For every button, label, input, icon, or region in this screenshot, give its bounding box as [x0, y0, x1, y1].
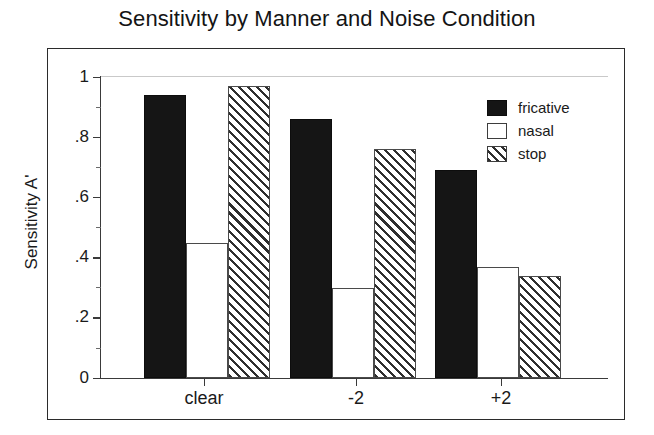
legend: fricative nasal stop	[487, 96, 607, 165]
y-tick-label-0.8: .8	[55, 128, 89, 145]
legend-label-stop: stop	[518, 145, 546, 162]
y-tick-1	[93, 77, 101, 78]
plot-top-rule	[100, 76, 608, 77]
bar-plus2-nasal	[477, 267, 519, 378]
y-tick-label-0: 0	[55, 369, 89, 386]
x-axis-line	[100, 378, 608, 379]
x-tick-clear	[204, 379, 205, 386]
figure: Sensitivity by Manner and Noise Conditio…	[0, 0, 654, 435]
legend-swatch-fricative-icon	[487, 100, 507, 116]
x-tick-minus2	[356, 379, 357, 386]
legend-swatch-nasal-icon	[487, 123, 507, 139]
bar-clear-nasal	[186, 243, 228, 378]
bar-clear-stop	[228, 86, 270, 378]
y-tick-minor-0.3	[96, 287, 101, 288]
x-tick-label-plus2: +2	[441, 388, 561, 409]
y-tick-0.6	[93, 197, 101, 198]
y-tick-label-0.6: .6	[55, 188, 89, 205]
y-tick-0	[93, 378, 101, 379]
legend-label-fricative: fricative	[518, 99, 570, 116]
y-tick-0.2	[93, 317, 101, 318]
legend-item-stop: stop	[487, 142, 607, 165]
legend-item-fricative: fricative	[487, 96, 607, 119]
x-tick-label-clear: clear	[144, 388, 264, 409]
legend-item-nasal: nasal	[487, 119, 607, 142]
y-tick-label-1: 1	[55, 68, 89, 85]
legend-swatch-stop-icon	[487, 146, 507, 162]
y-tick-minor-0.1	[96, 348, 101, 349]
bar-minus2-stop	[374, 149, 416, 378]
y-tick-minor-0.7	[96, 167, 101, 168]
bar-minus2-nasal	[332, 288, 374, 378]
x-tick-label-minus2: -2	[296, 388, 416, 409]
axes-area: Sensitivity A' 1 .8 .6 .4 .2 0 clear -2 …	[0, 0, 654, 435]
y-axis-title: Sensitivity A'	[22, 142, 42, 302]
y-tick-label-0.4: .4	[55, 248, 89, 265]
bar-plus2-fricative	[435, 170, 477, 378]
y-tick-0.4	[93, 257, 101, 258]
legend-label-nasal: nasal	[518, 122, 554, 139]
bar-clear-fricative	[144, 95, 186, 378]
y-tick-label-0.2: .2	[55, 308, 89, 325]
bar-minus2-fricative	[290, 119, 332, 378]
y-tick-minor-0.5	[96, 227, 101, 228]
y-tick-0.8	[93, 137, 101, 138]
x-tick-plus2	[501, 379, 502, 386]
bar-plus2-stop	[519, 276, 561, 378]
y-tick-minor-0.9	[96, 107, 101, 108]
